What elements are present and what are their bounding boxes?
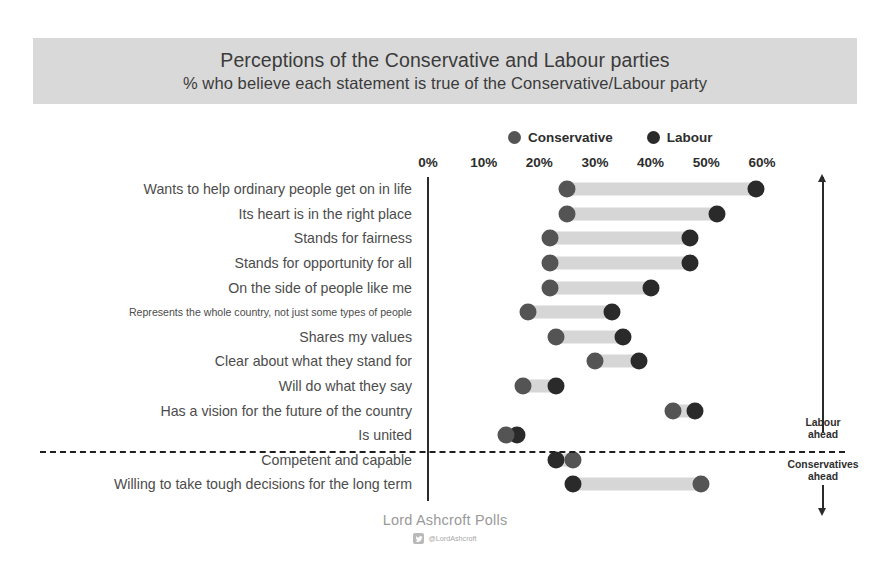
data-point-conservative[interactable] [514,378,531,395]
row-connector-bar [556,330,623,343]
chart-row: Clear about what they stand for [0,349,890,374]
annotation-labour-ahead-line1: Labour [775,417,871,429]
row-label: Shares my values [299,329,412,345]
chart-row: Represents the whole country, not just s… [0,300,890,325]
chart-row: Shares my values [0,325,890,350]
chart-row: Wants to help ordinary people get on in … [0,177,890,202]
chart-row: On the side of people like me [0,275,890,300]
data-point-conservative[interactable] [547,328,564,345]
chart-row: Willing to take tough decisions for the … [0,472,890,497]
legend-label-conservative: Conservative [528,130,613,145]
section-divider [40,451,845,453]
chart-page: Perceptions of the Conservative and Labo… [0,0,890,574]
row-connector-bar [567,183,756,196]
data-point-labour[interactable] [547,378,564,395]
data-point-labour[interactable] [603,304,620,321]
data-point-labour[interactable] [564,476,581,493]
chart-row: Its heart is in the right place [0,202,890,227]
x-tick-40pct: 40% [637,155,664,170]
data-point-conservative[interactable] [586,353,603,370]
annotation-labour-ahead-line2: ahead [775,429,871,441]
arrow-up-line [822,177,824,433]
filled-circle-icon [647,131,660,144]
data-point-labour[interactable] [681,255,698,272]
data-point-conservative[interactable] [542,279,559,296]
data-point-labour[interactable] [642,279,659,296]
chart-row: Has a vision for the future of the count… [0,398,890,423]
chart-row: Stands for opportunity for all [0,251,890,276]
row-connector-bar [528,306,611,319]
footer: Lord Ashcroft Polls @LordAshcroft [0,512,890,547]
twitter-icon [413,533,424,544]
data-point-conservative[interactable] [542,230,559,247]
x-tick-10pct: 10% [470,155,497,170]
data-point-conservative[interactable] [692,476,709,493]
row-label: Willing to take tough decisions for the … [114,476,412,492]
data-point-labour[interactable] [748,181,765,198]
annotation-labour-ahead: Labour ahead [775,417,871,441]
row-connector-bar [567,207,717,220]
filled-circle-icon [508,131,521,144]
plot-area: 0%10%20%30%40%50%60% Wants to help ordin… [0,155,890,505]
row-label: Stands for opportunity for all [235,255,412,271]
footer-handle-text: @LordAshcroft [428,534,476,543]
legend-item-conservative: Conservative [508,130,613,145]
x-tick-20pct: 20% [526,155,553,170]
data-point-labour[interactable] [631,353,648,370]
row-label: Will do what they say [279,378,412,394]
row-label: Has a vision for the future of the count… [160,403,412,419]
row-label: Clear about what they stand for [215,353,412,369]
row-label: Competent and capable [261,452,412,468]
row-label: Its heart is in the right place [239,206,413,222]
arrow-up-icon [818,174,826,182]
data-point-conservative[interactable] [564,451,581,468]
row-connector-bar [573,478,701,491]
annotation-conservatives-ahead-line2: ahead [775,471,871,483]
arrow-down-line [822,485,824,509]
row-label: Stands for fairness [294,230,412,246]
row-label: Wants to help ordinary people get on in … [144,181,412,197]
chart-subtitle: % who believe each statement is true of … [183,74,707,93]
data-point-conservative[interactable] [520,304,537,321]
x-tick-30pct: 30% [581,155,608,170]
x-tick-50pct: 50% [693,155,720,170]
data-point-conservative[interactable] [542,255,559,272]
chart-row: Will do what they say [0,374,890,399]
annotation-conservatives-ahead-line1: Conservatives [775,459,871,471]
data-point-labour[interactable] [709,205,726,222]
row-label: Represents the whole country, not just s… [129,306,412,318]
footer-source: Lord Ashcroft Polls [0,512,890,528]
x-tick-0pct: 0% [418,155,438,170]
data-point-labour[interactable] [687,402,704,419]
row-connector-bar [550,232,689,245]
data-point-conservative[interactable] [559,181,576,198]
data-point-conservative[interactable] [664,402,681,419]
row-label: On the side of people like me [228,280,412,296]
data-point-conservative[interactable] [497,427,514,444]
row-connector-bar [550,257,689,270]
title-banner: Perceptions of the Conservative and Labo… [33,38,857,104]
data-point-conservative[interactable] [559,205,576,222]
legend-item-labour: Labour [647,130,713,145]
chart-title: Perceptions of the Conservative and Labo… [220,49,669,72]
data-point-labour[interactable] [547,451,564,468]
data-point-labour[interactable] [614,328,631,345]
legend-label-labour: Labour [667,130,713,145]
annotation-conservatives-ahead: Conservatives ahead [775,459,871,483]
row-label: Is united [358,427,412,443]
x-axis-tick-labels: 0%10%20%30%40%50%60% [0,155,890,173]
row-connector-bar [550,281,650,294]
chart-rows: Wants to help ordinary people get on in … [0,177,890,497]
footer-handle[interactable]: @LordAshcroft [413,533,476,544]
chart-legend: Conservative Labour [508,130,713,145]
chart-row: Is united [0,423,890,448]
x-tick-60pct: 60% [748,155,775,170]
chart-row: Stands for fairness [0,226,890,251]
data-point-labour[interactable] [681,230,698,247]
